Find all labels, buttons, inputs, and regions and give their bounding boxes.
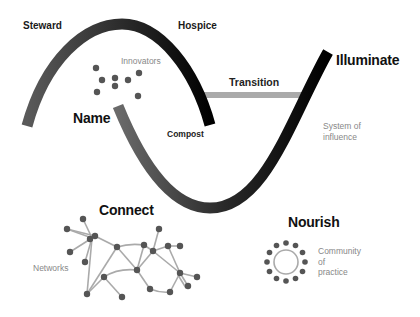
label-steward: Steward	[23, 21, 62, 31]
label-compost: Compost	[167, 130, 204, 139]
label-system-of-influence: System of influence	[323, 121, 361, 142]
community-ring	[264, 240, 308, 284]
label-illuminate: Illuminate	[336, 53, 399, 67]
two-loops-diagram: Steward Hospice Innovators Name Compost …	[0, 0, 420, 317]
community-line-1: Community	[318, 246, 361, 257]
label-innovators: Innovators	[121, 56, 161, 67]
network-graph	[64, 216, 200, 300]
label-networks: Networks	[33, 263, 68, 274]
label-community-of-practice: Community of practice	[318, 246, 361, 278]
new-system-curve	[118, 52, 328, 208]
system-line-2: influence	[323, 132, 361, 143]
innovators-cluster	[93, 65, 142, 99]
community-line-3: practice	[318, 267, 361, 278]
community-line-2: of	[318, 257, 361, 268]
label-name: Name	[73, 111, 110, 125]
label-transition: Transition	[229, 77, 279, 88]
system-line-1: System of	[323, 121, 361, 132]
label-connect: Connect	[99, 203, 154, 217]
label-nourish: Nourish	[288, 215, 340, 229]
label-hospice: Hospice	[178, 21, 217, 31]
